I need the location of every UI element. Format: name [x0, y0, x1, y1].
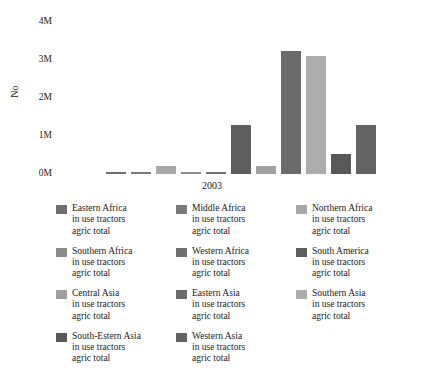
- legend-item-label: South Americain use tractorsagric total: [312, 246, 369, 280]
- legend-label-line-2: in use tractors: [312, 257, 369, 268]
- legend-label-line-3: agric total: [72, 311, 125, 322]
- bars-layer: [56, 22, 424, 174]
- legend-label-line-2: in use tractors: [312, 299, 366, 310]
- legend-label-line-1: Central Asia: [72, 288, 125, 299]
- legend-label-line-2: in use tractors: [192, 299, 245, 310]
- bar-eastern-africa: [106, 172, 126, 174]
- legend-label-line-1: Northern Africa: [312, 203, 372, 214]
- legend-label-line-3: agric total: [192, 311, 245, 322]
- legend-label-line-3: agric total: [312, 268, 369, 279]
- x-axis-tick-2003: 2003: [202, 180, 222, 191]
- y-axis-tick-1M: 1M: [39, 131, 52, 141]
- plot-area: [56, 22, 424, 174]
- x-axis-label: 2003: [0, 180, 444, 191]
- legend-swatch-icon: [296, 205, 307, 214]
- legend-swatch-icon: [56, 290, 67, 299]
- legend-item-label: Western Asiain use tractorsagric total: [192, 331, 245, 365]
- legend-item-label: Southern Africain use tractorsagric tota…: [72, 246, 132, 280]
- legend-item-central-asia[interactable]: Central Asiain use tractorsagric total: [56, 288, 176, 331]
- y-axis-tick-2M: 2M: [39, 93, 52, 103]
- legend-label-line-2: in use tractors: [312, 214, 372, 225]
- legend-label-line-3: agric total: [192, 268, 249, 279]
- legend-item-middle-africa[interactable]: Middle Africain use tractorsagric total: [176, 203, 296, 246]
- bar-south-america: [231, 125, 251, 174]
- legend-label-line-2: in use tractors: [72, 257, 132, 268]
- legend-label-line-1: Middle Africa: [192, 203, 246, 214]
- legend-item-south-estern-asia[interactable]: South-Estern Asiain use tractorsagric to…: [56, 331, 176, 374]
- bar-southern-africa: [181, 172, 201, 174]
- legend-item-label: Central Asiain use tractorsagric total: [72, 288, 125, 322]
- y-axis-tick-4M: 4M: [39, 17, 52, 27]
- legend-item-label: South-Estern Asiain use tractorsagric to…: [72, 331, 141, 365]
- legend-item-south-america[interactable]: South Americain use tractorsagric total: [296, 246, 416, 289]
- legend-item-label: Eastern Asiain use tractorsagric total: [192, 288, 245, 322]
- legend-label-line-3: agric total: [192, 353, 245, 364]
- legend-label-line-1: Western Asia: [192, 331, 245, 342]
- legend-label-line-2: in use tractors: [192, 214, 246, 225]
- legend-swatch-icon: [296, 290, 307, 299]
- bar-eastern-asia: [281, 51, 301, 175]
- bar-south-estern-asia: [331, 154, 351, 174]
- bar-chart-figure: No 0M1M2M3M4M 2003: [0, 0, 444, 200]
- legend-label-line-3: agric total: [312, 311, 366, 322]
- chart-legend: Eastern Africain use tractorsagric total…: [56, 203, 416, 373]
- y-axis-title: No: [9, 85, 20, 98]
- legend-item-eastern-africa[interactable]: Eastern Africain use tractorsagric total: [56, 203, 176, 246]
- legend-label-line-2: in use tractors: [72, 342, 141, 353]
- legend-label-line-1: Eastern Africa: [72, 203, 127, 214]
- legend-swatch-icon: [56, 248, 67, 257]
- legend-label-line-2: in use tractors: [192, 257, 249, 268]
- legend-item-western-africa[interactable]: Western Africain use tractorsagric total: [176, 246, 296, 289]
- legend-item-eastern-asia[interactable]: Eastern Asiain use tractorsagric total: [176, 288, 296, 331]
- legend-label-line-1: South-Estern Asia: [72, 331, 141, 342]
- legend-label-line-2: in use tractors: [192, 342, 245, 353]
- legend-label-line-3: agric total: [72, 226, 127, 237]
- legend-item-label: Southern Asiain use tractorsagric total: [312, 288, 366, 322]
- legend-label-line-3: agric total: [72, 353, 141, 364]
- legend-label-line-3: agric total: [192, 226, 246, 237]
- legend-swatch-icon: [176, 290, 187, 299]
- legend-swatch-icon: [296, 248, 307, 257]
- legend-swatch-icon: [56, 333, 67, 342]
- legend-item-western-asia[interactable]: Western Asiain use tractorsagric total: [176, 331, 296, 374]
- bar-western-africa: [206, 172, 226, 174]
- legend-label-line-1: Western Africa: [192, 246, 249, 257]
- bar-central-asia: [256, 166, 276, 174]
- y-axis-tick-3M: 3M: [39, 55, 52, 65]
- bar-middle-africa: [131, 172, 151, 174]
- legend-swatch-icon: [56, 205, 67, 214]
- bar-southern-asia: [306, 56, 326, 174]
- legend-label-line-1: Eastern Asia: [192, 288, 245, 299]
- legend-label-line-2: in use tractors: [72, 214, 127, 225]
- bar-northern-africa: [156, 166, 176, 174]
- legend-swatch-icon: [176, 333, 187, 342]
- legend-label-line-1: Southern Africa: [72, 246, 132, 257]
- y-axis-tick-0M: 0M: [39, 169, 52, 179]
- legend-item-southern-africa[interactable]: Southern Africain use tractorsagric tota…: [56, 246, 176, 289]
- legend-swatch-icon: [176, 248, 187, 257]
- legend-item-label: Northern Africain use tractorsagric tota…: [312, 203, 372, 237]
- legend-label-line-1: Southern Asia: [312, 288, 366, 299]
- legend-item-label: Western Africain use tractorsagric total: [192, 246, 249, 280]
- legend-swatch-icon: [176, 205, 187, 214]
- legend-item-southern-asia[interactable]: Southern Asiain use tractorsagric total: [296, 288, 416, 331]
- legend-label-line-1: South America: [312, 246, 369, 257]
- legend-label-line-3: agric total: [312, 226, 372, 237]
- legend-item-label: Middle Africain use tractorsagric total: [192, 203, 246, 237]
- bar-western-asia: [356, 125, 376, 174]
- legend-item-label: Eastern Africain use tractorsagric total: [72, 203, 127, 237]
- legend-label-line-2: in use tractors: [72, 299, 125, 310]
- legend-item-northern-africa[interactable]: Northern Africain use tractorsagric tota…: [296, 203, 416, 246]
- y-axis-tick-labels: 0M1M2M3M4M: [22, 18, 52, 174]
- legend-label-line-3: agric total: [72, 268, 132, 279]
